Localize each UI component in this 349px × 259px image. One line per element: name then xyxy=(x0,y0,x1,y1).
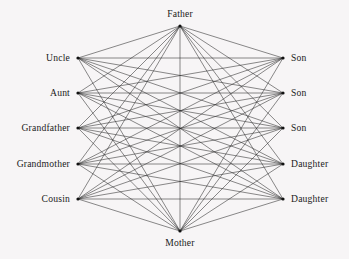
edge-layer xyxy=(78,26,283,231)
graph-edge xyxy=(78,26,180,93)
graph-node-grandmother[interactable] xyxy=(76,162,79,165)
node-label-son2: Son xyxy=(291,88,307,98)
graph-edge xyxy=(180,93,283,231)
graph-node-son2[interactable] xyxy=(281,91,284,94)
node-label-grandmother: Grandmother xyxy=(17,159,70,169)
graph-node-son1[interactable] xyxy=(281,56,284,59)
graph-edge xyxy=(78,93,180,231)
node-label-son1: Son xyxy=(291,53,307,63)
graph-node-son3[interactable] xyxy=(281,126,284,129)
node-label-daughter1: Daughter xyxy=(291,159,328,169)
graph-node-daughter1[interactable] xyxy=(281,162,284,165)
node-label-cousin: Cousin xyxy=(42,194,70,204)
graph-node-daughter2[interactable] xyxy=(281,197,284,200)
graph-edge xyxy=(78,58,180,231)
graph-edge xyxy=(180,199,283,231)
graph-edge xyxy=(78,164,180,231)
node-label-mother: Mother xyxy=(165,238,194,248)
graph-node-mother[interactable] xyxy=(178,229,181,232)
relationship-graph-diagram: FatherMotherUncleAuntGrandfatherGrandmot… xyxy=(0,0,349,259)
graph-edge xyxy=(78,199,180,231)
graph-edge xyxy=(180,164,283,231)
node-label-son3: Son xyxy=(291,123,307,133)
node-label-uncle: Uncle xyxy=(46,53,70,63)
graph-node-father[interactable] xyxy=(178,24,181,27)
node-label-grandfather: Grandfather xyxy=(21,123,70,133)
node-label-aunt: Aunt xyxy=(50,88,70,98)
graph-edge xyxy=(78,26,180,58)
graph-node-aunt[interactable] xyxy=(76,91,79,94)
graph-node-uncle[interactable] xyxy=(76,56,79,59)
graph-node-cousin[interactable] xyxy=(76,197,79,200)
graph-edge xyxy=(180,26,283,58)
graph-node-grandfather[interactable] xyxy=(76,126,79,129)
node-label-daughter2: Daughter xyxy=(291,194,328,204)
node-label-father: Father xyxy=(167,9,193,19)
graph-edge xyxy=(180,26,283,93)
